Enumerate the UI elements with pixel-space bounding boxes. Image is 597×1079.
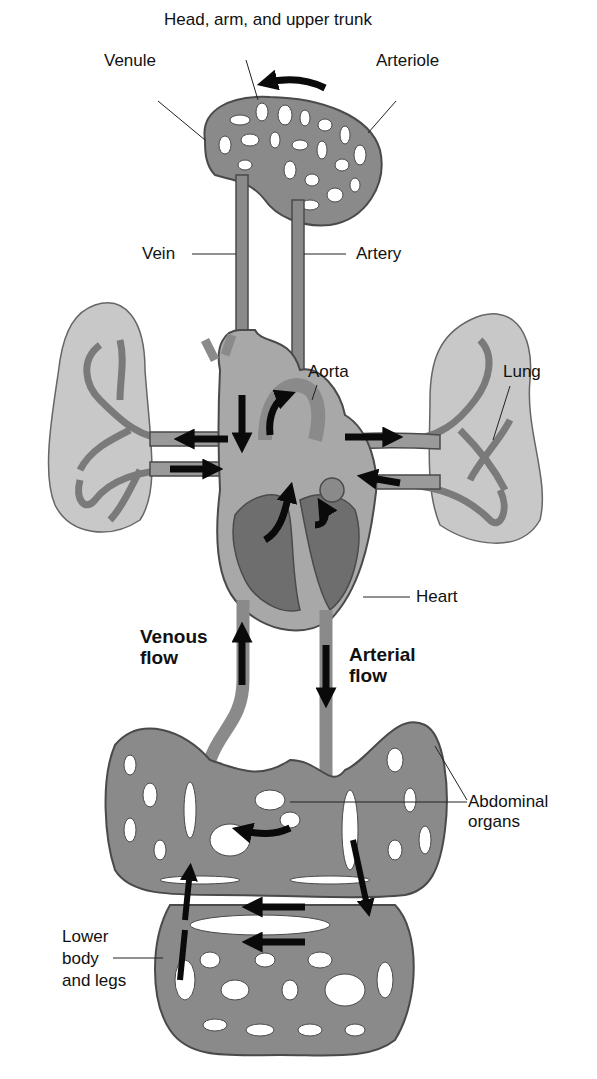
left-lung bbox=[49, 303, 175, 532]
label-vein: Vein bbox=[142, 244, 175, 264]
label-venule: Venule bbox=[104, 51, 156, 71]
right-lung bbox=[400, 314, 542, 543]
head-capillary-arrow-left-icon bbox=[265, 80, 325, 88]
label-head: Head, arm, and upper trunk bbox=[164, 10, 372, 30]
heart bbox=[205, 330, 376, 630]
label-heart: Heart bbox=[416, 587, 458, 607]
label-artery: Artery bbox=[356, 244, 401, 264]
label-abdominal-organs: Abdominal organs bbox=[468, 792, 548, 832]
label-venous-flow: Venous flow bbox=[140, 626, 208, 668]
label-arteriole: Arteriole bbox=[376, 51, 439, 71]
label-aorta: Aorta bbox=[308, 362, 349, 382]
lower-body-capillary-bed bbox=[155, 905, 414, 1056]
abdominal-capillary-bed bbox=[106, 722, 447, 897]
label-lung: Lung bbox=[503, 362, 541, 382]
label-arterial-flow: Arterial flow bbox=[349, 644, 416, 686]
label-lower-body: Lower body and legs bbox=[62, 926, 126, 992]
circulation-diagram bbox=[0, 0, 597, 1079]
